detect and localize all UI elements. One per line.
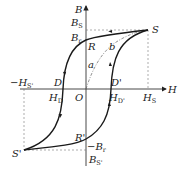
arrow-down-icon <box>63 72 66 76</box>
hd-prime-label: HD' <box>108 92 125 105</box>
point-d-label: D <box>53 77 62 88</box>
hysteresis-diagram: B H O BS Br S R b a −HS' D HD D' HD' HS … <box>0 0 182 175</box>
point-r-prime-label: R' <box>74 132 85 143</box>
point-r-label: R <box>87 41 96 52</box>
curve-a-label: a <box>88 59 94 70</box>
b-axis-label: B <box>74 4 82 15</box>
bs-label: BS <box>70 17 83 30</box>
point-d-prime-label: D' <box>110 77 122 88</box>
arrow-left-icon <box>108 30 112 33</box>
neg-hs-label: −HS' <box>10 77 34 90</box>
point-s-prime-label: S' <box>12 148 22 159</box>
hd-label: HD <box>48 92 63 105</box>
neg-br-label: −Br <box>87 141 107 154</box>
point-s-label: S <box>152 24 159 35</box>
br-label: Br <box>70 32 82 45</box>
arrow-up-icon <box>109 62 112 66</box>
h-axis-label: H <box>167 84 177 95</box>
neg-bs-label: BS' <box>88 154 103 167</box>
curve-b-label: b <box>109 41 115 52</box>
hs-label: HS <box>142 92 156 105</box>
origin-label: O <box>75 92 83 103</box>
